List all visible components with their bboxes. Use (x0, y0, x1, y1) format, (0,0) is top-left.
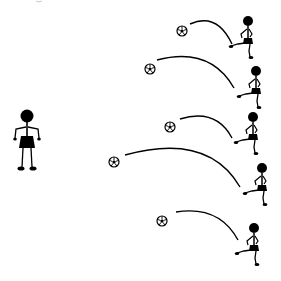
soccer-ball-icon (109, 157, 119, 167)
standing-player (13, 110, 41, 171)
trajectory-arc (157, 57, 234, 89)
soccer-ball-icon (145, 64, 155, 74)
stick-figure-kicker (229, 16, 254, 59)
trajectory-arc (180, 116, 232, 138)
stick-figure-kicker (237, 66, 262, 109)
kicker-4 (109, 148, 267, 206)
soccer-ball-icon (165, 122, 175, 132)
trajectory-arc (125, 148, 240, 187)
kicker-1 (177, 16, 253, 59)
trajectory-arc (176, 211, 238, 240)
stick-figure-kicker (235, 223, 260, 266)
kicker-2 (145, 57, 261, 110)
kicker-5 (157, 211, 259, 266)
soccer-drill-illustration (0, 0, 281, 281)
fragment-mark (36, 1, 42, 2)
trajectory-arc (190, 21, 232, 44)
stick-figure-kicker (243, 163, 268, 206)
soccer-ball-icon (157, 216, 167, 226)
soccer-ball-icon (177, 26, 187, 36)
stick-figure-kicker (234, 112, 259, 155)
